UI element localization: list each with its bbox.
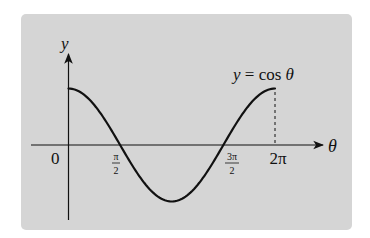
tick-label-0: 0 [51, 149, 60, 168]
tick-label-2pi: 2π [269, 149, 287, 168]
y-axis-label: y [59, 34, 69, 53]
tick-label-pi-over-2-den: 2 [114, 165, 119, 176]
cosine-plot: y θ 0 π 2 3π 2 2π y = cos θ [0, 0, 370, 238]
x-axis-label: θ [328, 136, 337, 156]
tick-label-3pi-over-2-den: 2 [230, 165, 235, 176]
tick-label-3pi-over-2-num: 3π [227, 151, 237, 162]
curve-annotation: y = cos θ [231, 65, 294, 84]
tick-label-pi-over-2-num: π [113, 151, 118, 162]
